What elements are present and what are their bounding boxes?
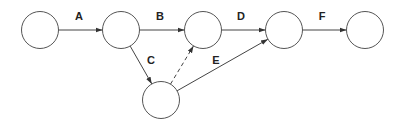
nodes-group — [22, 12, 384, 119]
node-n4 — [266, 12, 303, 49]
node-n5 — [347, 12, 384, 49]
node-n1 — [22, 12, 59, 49]
edge-label-a: A — [75, 10, 83, 22]
edge-label-d: D — [237, 10, 245, 22]
node-n3 — [185, 12, 222, 49]
network-diagram: ABCDEF — [0, 0, 401, 126]
edge-label-e: E — [212, 54, 219, 66]
node-n2 — [103, 12, 140, 49]
edge-label-b: B — [156, 10, 164, 22]
edge-label-f: F — [319, 10, 326, 22]
edge-e — [177, 39, 268, 91]
edge-dummy-dashed — [171, 46, 194, 84]
edge-label-c: C — [147, 54, 155, 66]
node-n6 — [143, 82, 180, 119]
